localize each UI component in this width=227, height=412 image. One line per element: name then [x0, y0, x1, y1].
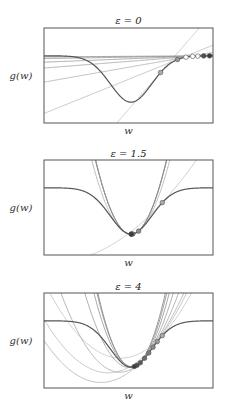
iterate-point — [175, 57, 180, 62]
quadratic-approximation — [44, 0, 213, 234]
y-axis-label: g(w) — [10, 335, 33, 346]
iterate-point — [155, 339, 160, 344]
x-axis-label: w — [124, 390, 133, 401]
iterate-point — [207, 54, 212, 59]
iterate-point — [160, 200, 165, 205]
iterate-point — [184, 55, 189, 60]
plot-frame — [44, 160, 213, 255]
iterate-point — [142, 356, 147, 361]
quadratic-approximation — [44, 219, 213, 382]
iterate-point — [146, 351, 151, 356]
y-axis-label: g(w) — [10, 202, 33, 213]
quadratic-approximation — [44, 230, 213, 372]
iterate-point — [195, 54, 200, 59]
quadratic-approximation — [44, 0, 213, 234]
panel-title: ε = 0 — [115, 15, 142, 26]
x-axis-label: w — [124, 257, 133, 268]
panel-title: ε = 1.5 — [110, 148, 146, 159]
quadratic-approximation — [44, 173, 213, 372]
plot-frame — [44, 293, 213, 388]
cost-function-curve — [44, 188, 213, 234]
iterate-point — [151, 345, 156, 350]
quadratic-approximation — [44, 0, 213, 234]
iterate-point — [136, 229, 141, 234]
x-axis-label: w — [124, 125, 133, 136]
panel-2: ε = 1.5wg(w) — [10, 0, 213, 268]
iterate-point — [190, 54, 195, 59]
panel-title: ε = 4 — [115, 281, 141, 292]
quadratic-approximation — [44, 12, 213, 207]
quadratic-approximation — [44, 0, 213, 234]
figure: ε = 0wg(w)ε = 1.5wg(w)ε = 4wg(w) — [0, 0, 227, 412]
iterate-point — [158, 70, 163, 75]
iterate-point — [160, 333, 165, 338]
cost-function-curve — [44, 321, 213, 367]
iterate-point — [129, 232, 134, 237]
panel-3: ε = 4wg(w) — [10, 0, 213, 401]
panel-1: ε = 0wg(w) — [10, 12, 213, 207]
plot-frame — [44, 28, 213, 123]
iterate-point — [201, 54, 206, 59]
iterate-point — [132, 364, 137, 369]
y-axis-label: g(w) — [10, 70, 33, 81]
